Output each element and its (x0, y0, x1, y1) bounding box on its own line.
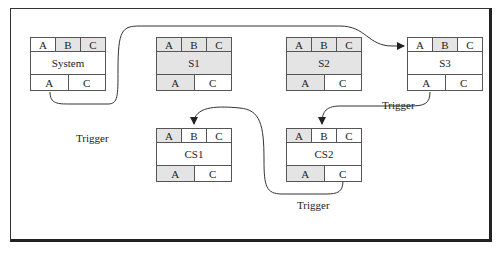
node-top-row: ABC (31, 38, 105, 52)
port-c: C (446, 75, 483, 90)
node-s2: ABCS2AC (286, 37, 362, 91)
node-name: CS1 (157, 143, 231, 166)
port-a: A (31, 38, 56, 51)
port-c: C (325, 166, 362, 181)
port-b: B (182, 38, 207, 51)
node-name: S3 (408, 52, 482, 75)
port-a: A (157, 166, 195, 181)
edge-label-trigger: Trigger (382, 99, 415, 111)
port-b: B (182, 129, 207, 142)
node-name: S1 (157, 52, 231, 75)
port-c: C (325, 75, 362, 90)
port-a: A (287, 129, 312, 142)
node-top-row: ABC (157, 38, 231, 52)
node-bottom-row: AC (408, 75, 482, 90)
port-c: C (207, 129, 231, 142)
port-c: C (458, 38, 482, 51)
port-a: A (287, 38, 312, 51)
port-b: B (312, 38, 337, 51)
node-top-row: ABC (408, 38, 482, 52)
port-c: C (195, 166, 232, 181)
node-name: System (31, 52, 105, 75)
node-name: CS2 (287, 143, 361, 166)
node-bottom-row: AC (157, 166, 231, 181)
port-a: A (287, 166, 325, 181)
port-a: A (408, 75, 446, 90)
port-c: C (195, 75, 232, 90)
port-a: A (31, 75, 69, 90)
node-top-row: ABC (287, 38, 361, 52)
port-a: A (408, 38, 433, 51)
node-system: ABCSystemAC (30, 37, 106, 91)
node-top-row: ABC (157, 129, 231, 143)
node-bottom-row: AC (31, 75, 105, 90)
node-bottom-row: AC (287, 75, 361, 90)
edge-label-trigger: Trigger (76, 132, 109, 144)
port-c: C (337, 38, 361, 51)
port-b: B (312, 129, 337, 142)
node-cs2: ABCCS2AC (286, 128, 362, 182)
port-a: A (157, 38, 182, 51)
node-bottom-row: AC (157, 75, 231, 90)
port-b: B (433, 38, 458, 51)
node-name: S2 (287, 52, 361, 75)
node-top-row: ABC (287, 129, 361, 143)
port-b: B (56, 38, 81, 51)
edge-label-trigger: Trigger (297, 199, 330, 211)
port-c: C (207, 38, 231, 51)
port-a: A (157, 75, 195, 90)
node-cs1: ABCCS1AC (156, 128, 232, 182)
node-s3: ABCS3AC (407, 37, 483, 91)
port-a: A (287, 75, 325, 90)
port-c: C (81, 38, 105, 51)
port-c: C (337, 129, 361, 142)
node-s1: ABCS1AC (156, 37, 232, 91)
node-bottom-row: AC (287, 166, 361, 181)
port-a: A (157, 129, 182, 142)
port-c: C (69, 75, 106, 90)
